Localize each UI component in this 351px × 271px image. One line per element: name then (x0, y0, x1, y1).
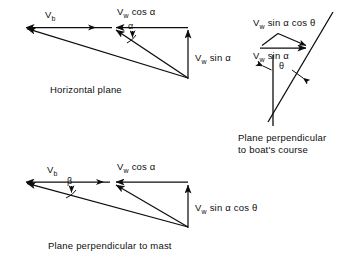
vw-sin-alpha-cos-theta-label-bottom: Vw sin α cos θ (195, 203, 257, 215)
true-wind-vector-arrow (27, 29, 188, 78)
vw-sin-alpha-cos-theta-label-right: Vw sin α cos θ (253, 18, 315, 30)
vw-sin-alpha-cos-theta-arrow (278, 34, 306, 46)
component-left-leg (262, 34, 278, 46)
alpha-angle-label: α (128, 22, 133, 31)
horizontal-plane-caption: Horizontal plane (50, 84, 122, 96)
vw-cos-alpha-label-bottom: Vw cos α (117, 162, 156, 174)
theta-angle-label: θ (279, 62, 284, 71)
theta-pointer-left (263, 66, 272, 70)
boat-course-plane-caption-line1: Plane perpendicular (238, 132, 326, 144)
vb-label-bottom: Vb (47, 165, 58, 177)
boat-course-plane-caption-line2: to boat's course (238, 144, 308, 156)
beta-angle-label: β (67, 177, 72, 186)
vb-label-top: Vb (45, 10, 56, 22)
vector-diagram-figure: Vb Vw cos α Vw sin α α Horizontal plane … (0, 0, 351, 271)
mast-plane-diagram (26, 179, 188, 228)
vw-sin-alpha-label-top: Vw sin α (195, 53, 231, 65)
true-wind-vector-arrow-bottom (27, 183, 188, 227)
horizontal-plane-diagram (26, 25, 188, 79)
apparent-wind-resultant-arrow-bottom (116, 185, 188, 227)
mast-plane-caption: Plane perpendicular to mast (48, 240, 172, 252)
apparent-wind-resultant-arrow (116, 30, 188, 78)
vw-cos-alpha-label-top: Vw cos α (117, 7, 156, 19)
